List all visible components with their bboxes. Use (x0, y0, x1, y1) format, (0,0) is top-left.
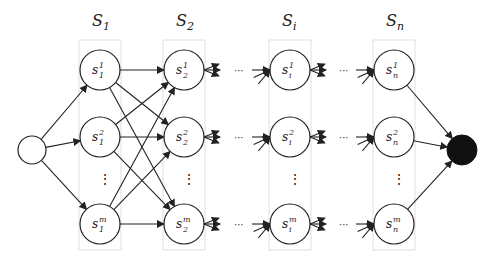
horizontal-ellipsis: ··· (339, 132, 349, 143)
edge-arrow (204, 70, 219, 76)
edge-arrow (258, 70, 270, 84)
state-node (164, 117, 204, 157)
state-node (374, 50, 414, 90)
edge-arrow (204, 218, 219, 224)
edge-arrow (258, 137, 270, 151)
state-node (270, 50, 310, 90)
source-node (18, 136, 46, 164)
edge-arrow (258, 224, 270, 238)
edge-arrow (310, 218, 325, 224)
edge-arrow (254, 137, 270, 145)
sink-node (447, 135, 477, 165)
vertical-ellipsis: ⋮ (98, 171, 112, 187)
edge-arrow (204, 64, 219, 70)
edge-arrow (41, 160, 86, 209)
edge-arrow (362, 224, 374, 238)
horizontal-ellipsis: ··· (234, 219, 244, 230)
edge-arrow (310, 137, 325, 143)
edge-arrow (414, 141, 448, 147)
vertical-ellipsis: ⋮ (392, 171, 406, 187)
horizontal-ellipsis: ··· (339, 65, 349, 76)
vertical-ellipsis: ⋮ (182, 171, 196, 187)
state-node (270, 117, 310, 157)
edge-arrow (254, 70, 270, 78)
edge-arrow (310, 131, 325, 137)
stage-label-Sn: Sn (386, 11, 404, 33)
edge-arrow (358, 137, 374, 145)
vertical-ellipsis: ⋮ (288, 171, 302, 187)
edge-arrow (46, 141, 81, 148)
edge-arrow (204, 137, 219, 143)
state-node (270, 204, 310, 244)
edge-arrow (362, 70, 374, 84)
diagram-canvas: S1s11s21sm1⋮S2s12s22sm2⋮Sis1is2ismi⋮Sns1… (0, 0, 492, 266)
edge-arrow (310, 224, 325, 230)
edge-arrow (358, 70, 374, 78)
stage-graph: S1s11s21sm1⋮S2s12s22sm2⋮Sis1is2ismi⋮Sns1… (0, 0, 492, 266)
stage-label-Si: Si (282, 11, 297, 33)
state-node (374, 204, 414, 244)
edge-arrow (254, 224, 270, 232)
state-node (80, 50, 120, 90)
state-node (164, 204, 204, 244)
horizontal-ellipsis: ··· (339, 219, 349, 230)
edge-arrow (362, 137, 374, 151)
state-node (374, 117, 414, 157)
edge-arrow (358, 224, 374, 232)
state-node (164, 50, 204, 90)
horizontal-ellipsis: ··· (234, 132, 244, 143)
edge-arrow (407, 85, 452, 138)
state-node (80, 117, 120, 157)
edge-arrow (408, 161, 452, 209)
edge-arrow (204, 131, 219, 137)
horizontal-ellipsis: ··· (234, 65, 244, 76)
state-node (80, 204, 120, 244)
edge-arrow (204, 224, 219, 230)
edge-arrow (41, 85, 87, 139)
stage-label-S1: S1 (92, 11, 110, 33)
edge-arrow (310, 64, 325, 70)
stage-label-S2: S2 (176, 11, 194, 33)
edge-arrow (310, 70, 325, 76)
